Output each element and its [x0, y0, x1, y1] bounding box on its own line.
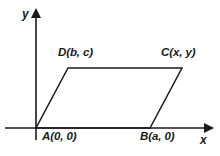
- vertex-label-d: D(b, c): [58, 47, 93, 59]
- vertex-label-b: B(a, 0): [140, 131, 174, 143]
- figure-canvas: [0, 0, 220, 156]
- vertex-label-a: A(0, 0): [42, 131, 76, 143]
- coordinate-geometry-figure: D(b, c) C(x, y) A(0, 0) B(a, 0) y x: [0, 0, 220, 156]
- parallelogram-shape: [36, 68, 182, 128]
- y-axis-arrow-icon: [31, 8, 41, 18]
- vertex-label-c: C(x, y): [161, 47, 195, 59]
- x-axis-arrow-icon: [204, 123, 214, 133]
- x-axis-label: x: [200, 134, 207, 146]
- y-axis-label: y: [22, 8, 29, 20]
